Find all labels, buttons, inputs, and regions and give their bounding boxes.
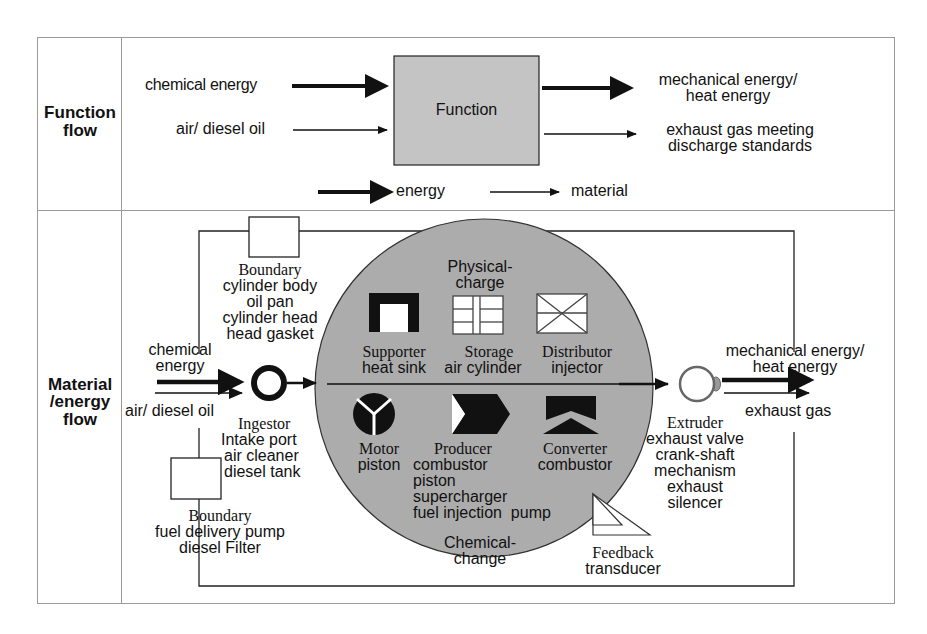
component-title: Converter bbox=[525, 441, 625, 457]
mf-output-material-label: exhaust gas bbox=[745, 403, 831, 419]
component-converter: Converter combustor bbox=[525, 441, 625, 473]
caption-line: charge bbox=[430, 275, 530, 291]
fn-input-energy-label: chemical energy bbox=[145, 77, 257, 93]
component-title: Motor bbox=[339, 441, 419, 457]
boundary-top-title: Boundary bbox=[205, 262, 335, 278]
supporter-icon bbox=[369, 293, 419, 332]
component-item: combustor bbox=[525, 457, 625, 473]
boundary-top-item: cylinder body bbox=[205, 278, 335, 294]
ingestor-label: Ingestor Intake port air cleaner diesel … bbox=[221, 416, 301, 480]
boundary-bottom-label: Boundary fuel delivery pump diesel Filte… bbox=[135, 508, 305, 556]
feedback-title: Feedback bbox=[568, 545, 678, 561]
row-header-material-energy-flow: Material /energy flow bbox=[39, 376, 121, 428]
label-line: mechanical energy/ bbox=[638, 72, 818, 88]
mf-input-energy-label: chemical energy bbox=[140, 342, 220, 374]
ingestor-title: Ingestor bbox=[221, 416, 301, 432]
boundary-top-label: Boundary cylinder body oil pan cylinder … bbox=[205, 262, 335, 342]
label-line: heat energy bbox=[705, 359, 885, 375]
boundary-bottom-item: diesel Filter bbox=[135, 540, 305, 556]
component-title: Distributor bbox=[522, 344, 632, 360]
extruder-title: Extruder bbox=[630, 415, 760, 431]
label-line: energy bbox=[140, 358, 220, 374]
caption-line: Physical- bbox=[430, 259, 530, 275]
row-header-line: /energy bbox=[39, 393, 121, 410]
motor-icon bbox=[353, 393, 395, 435]
boundary-top-item: cylinder head bbox=[205, 310, 335, 326]
fn-output-material-label: exhaust gas meeting discharge standards bbox=[640, 122, 840, 154]
caption-line: Chemical- bbox=[430, 535, 530, 551]
fn-output-energy-label: mechanical energy/ heat energy bbox=[638, 72, 818, 104]
row-header-line: flow bbox=[39, 411, 121, 428]
label-line: heat energy bbox=[638, 88, 818, 104]
label-line: mechanical energy/ bbox=[705, 343, 885, 359]
extruder-item: exhaust bbox=[630, 479, 760, 495]
ingestor-item: diesel tank bbox=[221, 464, 301, 480]
component-item: supercharger bbox=[413, 489, 551, 505]
boundary-bottom-title: Boundary bbox=[135, 508, 305, 524]
storage-icon bbox=[453, 296, 503, 334]
component-motor: Motor piston bbox=[339, 441, 419, 473]
extruder-label: Extruder exhaust valve crank-shaft mecha… bbox=[630, 415, 760, 511]
ingestor-icon bbox=[254, 368, 284, 398]
label-line: exhaust gas meeting bbox=[640, 122, 840, 138]
fn-input-material-label: air/ diesel oil bbox=[176, 121, 265, 137]
ingestor-item: air cleaner bbox=[221, 448, 301, 464]
row-header-function-flow: Function flow bbox=[39, 104, 121, 140]
component-item: piston bbox=[413, 473, 551, 489]
legend-energy-label: energy bbox=[396, 183, 445, 199]
boundary-bottom-box bbox=[171, 458, 221, 499]
mf-output-energy-label: mechanical energy/ heat energy bbox=[705, 343, 885, 375]
row-header-line: flow bbox=[39, 122, 121, 140]
boundary-top-item: head gasket bbox=[205, 326, 335, 342]
extruder-item: mechanism bbox=[630, 463, 760, 479]
component-distributor: Distributor injector bbox=[522, 344, 632, 376]
distributor-icon bbox=[537, 294, 587, 333]
physical-charge-caption: Physical- charge bbox=[430, 259, 530, 291]
boundary-bottom-item: fuel delivery pump bbox=[135, 524, 305, 540]
extruder-item: silencer bbox=[630, 495, 760, 511]
label-line: discharge standards bbox=[640, 138, 840, 154]
component-item: injector bbox=[522, 360, 632, 376]
chemical-change-caption: Chemical- change bbox=[430, 535, 530, 567]
function-box-label: Function bbox=[394, 102, 539, 118]
boundary-top-item: oil pan bbox=[205, 294, 335, 310]
extruder-item: exhaust valve bbox=[630, 431, 760, 447]
component-item: piston bbox=[339, 457, 419, 473]
row-header-line: Material bbox=[39, 376, 121, 393]
ingestor-item: Intake port bbox=[221, 432, 301, 448]
component-item: fuel injection pump bbox=[413, 505, 551, 521]
label-line: chemical bbox=[140, 342, 220, 358]
boundary-top-box bbox=[249, 217, 299, 257]
row-header-line: Function bbox=[39, 104, 121, 122]
feedback-item: transducer bbox=[568, 561, 678, 577]
mf-input-material-label: air/ diesel oil bbox=[125, 403, 214, 419]
legend-material-label: material bbox=[571, 183, 628, 199]
extruder-item: crank-shaft bbox=[630, 447, 760, 463]
caption-line: change bbox=[430, 551, 530, 567]
feedback-label: Feedback transducer bbox=[568, 545, 678, 577]
